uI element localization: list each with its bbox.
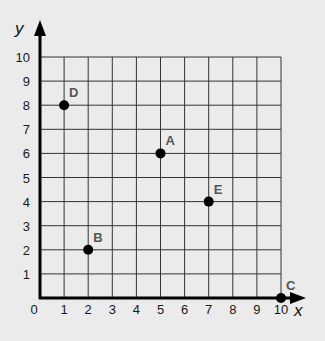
x-tick-label: 2 xyxy=(85,302,92,317)
point-label: C xyxy=(286,278,296,293)
background xyxy=(0,0,325,341)
y-tick-label: 6 xyxy=(23,146,30,161)
y-axis-label: y xyxy=(14,19,25,38)
y-tick-label: 10 xyxy=(16,50,30,65)
point-marker-icon xyxy=(156,148,166,158)
y-tick-label: 4 xyxy=(23,195,30,210)
point-marker-icon xyxy=(276,293,286,303)
x-tick-label: 8 xyxy=(229,302,236,317)
x-tick-label: 3 xyxy=(109,302,116,317)
x-tick-label: 7 xyxy=(205,302,212,317)
point-label: E xyxy=(214,182,223,197)
point-label: B xyxy=(93,230,102,245)
point-marker-icon xyxy=(204,197,214,207)
y-tick-label: 2 xyxy=(23,243,30,258)
x-tick-label: 9 xyxy=(253,302,260,317)
x-axis-label: x xyxy=(293,301,303,320)
y-tick-label: 9 xyxy=(23,74,30,89)
y-tick-label: 8 xyxy=(23,98,30,113)
y-tick-label: 3 xyxy=(23,219,30,234)
point-label: D xyxy=(69,85,78,100)
x-tick-label: 1 xyxy=(60,302,67,317)
coordinate-plane: 012345678910 12345678910 y x ABCDE xyxy=(0,0,325,341)
point-marker-icon xyxy=(83,245,93,255)
x-tick-label: 6 xyxy=(181,302,188,317)
y-tick-label: 5 xyxy=(23,171,30,186)
point-label: A xyxy=(166,133,176,148)
x-tick-label: 5 xyxy=(157,302,164,317)
x-tick-label: 4 xyxy=(133,302,140,317)
y-tick-label: 7 xyxy=(23,122,30,137)
point-marker-icon xyxy=(59,100,69,110)
x-tick-label: 10 xyxy=(274,302,288,317)
x-tick-label: 0 xyxy=(30,302,37,317)
y-tick-label: 1 xyxy=(23,267,30,282)
